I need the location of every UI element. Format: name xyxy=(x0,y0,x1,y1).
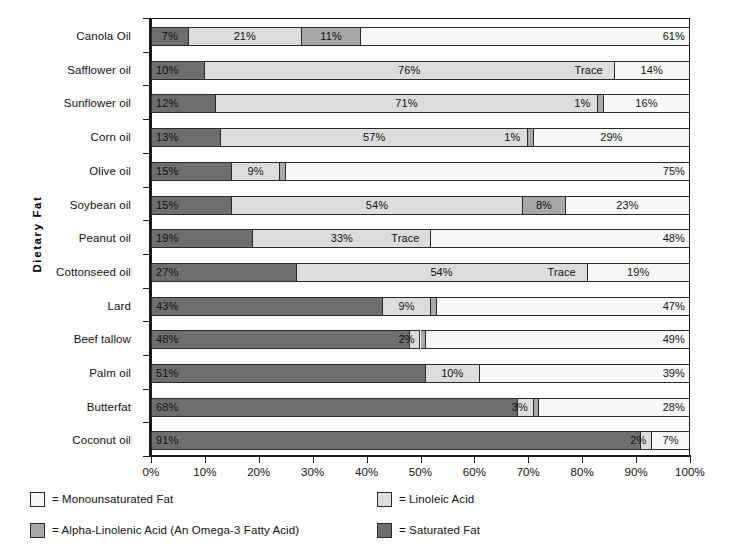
x-axis-tick xyxy=(528,457,529,463)
y-axis-tick xyxy=(143,85,151,86)
x-axis-tick-label: 40% xyxy=(342,466,392,478)
segment-value-label: 21% xyxy=(189,28,301,45)
legend-label: = Linoleic Acid xyxy=(399,493,474,505)
segment-value-label: 49% xyxy=(663,331,685,348)
bar-row: 10%76%Trace14% xyxy=(151,61,690,80)
x-axis-tick xyxy=(313,457,314,463)
bar-row: 15%54%8%23% xyxy=(151,196,690,215)
x-axis-tick xyxy=(474,457,475,463)
segment-value-label: Trace xyxy=(575,61,603,80)
y-axis-tick xyxy=(143,18,151,19)
bar-segment-monounsaturated: 19% xyxy=(588,263,690,282)
category-label: Safflower oil xyxy=(0,64,131,76)
bar-segment-saturated: 48% xyxy=(151,330,410,349)
segment-value-label: 10% xyxy=(156,62,178,79)
segment-value-label: 91% xyxy=(156,432,178,449)
segment-value-label: 23% xyxy=(566,197,689,214)
bar-segment-monounsaturated: 61% xyxy=(361,27,690,46)
segment-value-label: 76% xyxy=(205,62,614,79)
bar-segment-monounsaturated: 48% xyxy=(431,229,690,248)
segment-value-label: 68% xyxy=(156,399,178,416)
category-label: Butterfat xyxy=(0,401,131,413)
bar-segment-saturated: 15% xyxy=(151,196,232,215)
bar-segment-saturated: 51% xyxy=(151,364,426,383)
segment-value-label: 48% xyxy=(156,331,178,348)
y-axis-tick xyxy=(143,355,151,356)
bar-segment-linoleic: 10% xyxy=(426,364,480,383)
bar-segment-saturated: 15% xyxy=(151,162,232,181)
bar-segment-saturated: 7% xyxy=(151,27,189,46)
segment-value-label: 2% xyxy=(399,330,415,349)
category-label: Soybean oil xyxy=(0,199,131,211)
legend-swatch-alpha_linolenic xyxy=(30,523,45,538)
legend-item-saturated: = Saturated Fat xyxy=(377,519,480,541)
x-axis-tick xyxy=(205,457,206,463)
x-axis-tick xyxy=(636,457,637,463)
bar-row: 48%2%1%49% xyxy=(151,330,690,349)
legend-item-alpha_linolenic: = Alpha-Linolenic Acid (An Omega-3 Fatty… xyxy=(30,519,299,541)
bar-segment-monounsaturated: 47% xyxy=(437,297,690,316)
segment-value-label: 48% xyxy=(663,230,685,247)
x-axis-tick-label: 80% xyxy=(557,466,607,478)
category-label: Lard xyxy=(0,300,131,312)
y-axis-tick xyxy=(143,220,151,221)
bar-segment-linoleic: 21% xyxy=(189,27,302,46)
y-axis-tick xyxy=(143,422,151,423)
bar-row: 15%9%1%75% xyxy=(151,162,690,181)
x-axis-tick-label: 10% xyxy=(180,466,230,478)
segment-value-label: 16% xyxy=(604,95,689,112)
bar-segment-monounsaturated: 39% xyxy=(480,364,690,383)
category-label: Peanut oil xyxy=(0,232,131,244)
bar-segment-linoleic: 9% xyxy=(383,297,432,316)
segment-value-label: 3% xyxy=(512,398,528,417)
legend-item-monounsaturated: = Monounsaturated Fat xyxy=(30,488,173,510)
bar-segment-linoleic: 54% xyxy=(297,263,588,282)
y-axis-tick xyxy=(143,254,151,255)
legend-swatch-monounsaturated xyxy=(30,492,45,507)
y-axis-tick xyxy=(143,456,151,457)
y-axis-tick xyxy=(143,119,151,120)
bar-row: 27%54%Trace19% xyxy=(151,263,690,282)
bar-segment-saturated: 19% xyxy=(151,229,253,248)
bar-segment-linoleic: 57% xyxy=(221,128,528,147)
category-label: Sunflower oil xyxy=(0,97,131,109)
bar-row: 7%21%11%61% xyxy=(151,27,690,46)
segment-value-label: 7% xyxy=(652,432,689,449)
x-axis-tick xyxy=(421,457,422,463)
segment-value-label: 1% xyxy=(504,128,520,147)
segment-value-label: 71% xyxy=(216,95,598,112)
segment-value-label: 2% xyxy=(630,431,646,450)
bar-row: 19%33%Trace48% xyxy=(151,229,690,248)
legend-swatch-linoleic xyxy=(377,492,392,507)
x-axis-tick-label: 30% xyxy=(288,466,338,478)
segment-value-label: 8% xyxy=(523,197,565,214)
category-label: Beef tallow xyxy=(0,333,131,345)
segment-value-label: 9% xyxy=(232,163,280,180)
x-axis-tick xyxy=(582,457,583,463)
bar-segment-monounsaturated: 23% xyxy=(566,196,690,215)
segment-value-label: 19% xyxy=(588,264,689,281)
stacked-bar-chart: Dietary Fat Canola OilSafflower oilSunfl… xyxy=(0,0,738,558)
segment-value-label: 61% xyxy=(663,28,685,45)
x-axis-tick-label: 70% xyxy=(503,466,553,478)
category-label: Canola Oil xyxy=(0,30,131,42)
segment-value-label: 1% xyxy=(574,94,590,113)
segment-value-label: 51% xyxy=(156,365,178,382)
bar-segment-saturated: 68% xyxy=(151,398,518,417)
x-axis-tick-label: 90% xyxy=(611,466,661,478)
bar-row: 91%2%7% xyxy=(151,431,690,450)
segment-value-label: 75% xyxy=(663,163,685,180)
segment-value-label: 11% xyxy=(302,28,360,45)
bar-row: 43%9%1%47% xyxy=(151,297,690,316)
bar-segment-alpha_linolenic: 11% xyxy=(302,27,361,46)
bar-row: 13%57%1%29% xyxy=(151,128,690,147)
bar-segment-monounsaturated: 14% xyxy=(615,61,690,80)
chart-legend: = Monounsaturated Fat= Alpha-Linolenic A… xyxy=(0,488,738,548)
bar-segment-saturated: 27% xyxy=(151,263,297,282)
segment-value-label: 15% xyxy=(156,163,178,180)
bar-row: 12%71%1%16% xyxy=(151,94,690,113)
bar-segment-linoleic: 54% xyxy=(232,196,523,215)
segment-value-label: 39% xyxy=(663,365,685,382)
bar-row: 68%3%1%28% xyxy=(151,398,690,417)
segment-value-label: 15% xyxy=(156,197,178,214)
